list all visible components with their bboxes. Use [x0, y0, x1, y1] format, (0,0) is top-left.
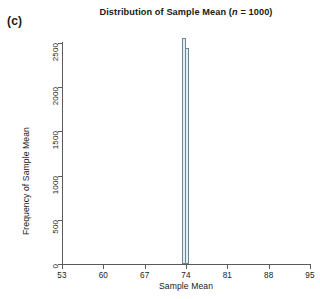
x-axis-tick	[145, 265, 146, 269]
plot-area: 05001000150020002500	[62, 43, 310, 264]
x-axis-tick-label: 67	[140, 271, 149, 280]
x-axis-tick-label: 95	[305, 271, 314, 280]
x-axis-tick	[186, 265, 187, 269]
y-axis-tick-label: 1500	[51, 131, 60, 149]
y-axis-tick-label: 2500	[51, 43, 60, 61]
x-axis-tick-label: 81	[223, 271, 232, 280]
x-axis-tick-label: 74	[181, 271, 190, 280]
y-axis-tick-label: 1000	[51, 176, 60, 194]
x-axis-tick-label: 60	[99, 271, 108, 280]
histogram-bar	[185, 48, 189, 264]
y-axis-tick-label: 2000	[51, 87, 60, 105]
chart-title: Distribution of Sample Mean (n = 1000)	[62, 7, 310, 17]
x-axis-label: Sample Mean	[62, 281, 310, 291]
figure-panel-c: (c) Distribution of Sample Mean (n = 100…	[0, 0, 320, 299]
x-axis-tick	[227, 265, 228, 269]
x-axis-tick	[310, 265, 311, 269]
y-axis-label: Frequency of Sample Mean	[21, 127, 31, 235]
x-axis-tick	[62, 265, 63, 269]
x-axis-tick-label: 53	[57, 271, 66, 280]
x-axis-tick-label: 88	[264, 271, 273, 280]
panel-label: (c)	[7, 14, 22, 28]
x-axis-tick	[269, 265, 270, 269]
x-axis-tick	[103, 265, 104, 269]
chart-title-prefix: Distribution of Sample Mean (	[99, 7, 232, 17]
y-axis-tick-label: 0	[51, 264, 60, 269]
chart-title-suffix: = 1000)	[238, 7, 273, 17]
y-axis-tick-label: 500	[51, 220, 60, 234]
